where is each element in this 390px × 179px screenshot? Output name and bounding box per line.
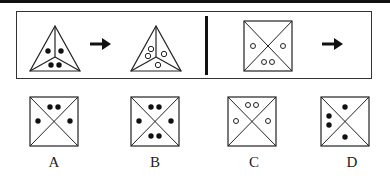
option-d-figure[interactable] (320, 96, 370, 147)
triangle-figure-result (128, 23, 184, 73)
right-arrow-icon (322, 38, 344, 50)
square-figure-start (243, 20, 293, 72)
top-border-bar (0, 0, 390, 3)
option-d-label[interactable]: D (342, 154, 362, 171)
option-c-figure[interactable] (227, 96, 277, 147)
triangle-figure-start (27, 23, 83, 73)
divider-line (205, 16, 208, 75)
option-c-label[interactable]: C (244, 154, 264, 171)
option-a-figure[interactable] (29, 96, 79, 147)
option-b-figure[interactable] (130, 96, 180, 147)
option-b-label[interactable]: B (145, 154, 165, 171)
right-arrow-icon (90, 38, 112, 50)
option-a-label[interactable]: A (44, 154, 64, 171)
